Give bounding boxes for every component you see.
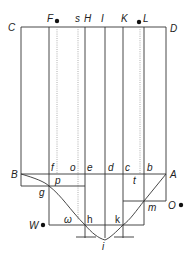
label-c: c [125,162,130,173]
label-W: W [29,220,40,231]
label-L: L [143,13,149,24]
geometric-diagram: C F s H I K L D B f o e d c b A p t g m … [0,0,190,257]
label-g: g [39,187,45,198]
label-b: b [147,162,153,173]
label-H: H [84,13,92,24]
label-d: d [108,162,114,173]
label-s: s [75,13,80,24]
label-p: p [54,175,61,186]
label-K: K [121,13,129,24]
label-k: k [115,214,121,225]
label-A: A [169,169,177,180]
label-I: I [101,13,104,24]
label-f: f [51,162,55,173]
point-L [137,20,141,24]
label-D: D [170,23,177,34]
label-i: i [102,241,105,252]
point-F [55,19,59,23]
label-C: C [8,22,16,33]
point-W [41,223,45,227]
label-h: h [87,214,93,225]
label-F: F [47,13,54,24]
label-O: O [168,200,176,211]
label-B: B [11,169,18,180]
label-omega: ω [64,214,72,225]
label-t: t [133,175,137,186]
point-O [179,203,183,207]
label-e: e [87,162,93,173]
label-o: o [70,162,76,173]
label-m: m [148,202,156,213]
